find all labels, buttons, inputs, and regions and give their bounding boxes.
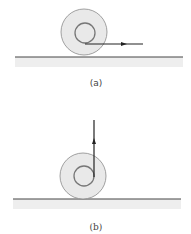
- wheel-inner: [74, 166, 94, 186]
- arrowhead-icon: [121, 42, 127, 46]
- wheel-inner: [75, 23, 95, 43]
- panel-a: (a): [15, 9, 183, 88]
- ground-shadow: [15, 57, 183, 67]
- ground-shadow: [13, 199, 181, 209]
- caption-b: (b): [90, 222, 103, 232]
- arrowhead-icon: [92, 138, 96, 144]
- panel-b: (b): [13, 120, 181, 232]
- diagram-canvas: (a) (b): [0, 0, 191, 234]
- caption-a: (a): [90, 78, 103, 88]
